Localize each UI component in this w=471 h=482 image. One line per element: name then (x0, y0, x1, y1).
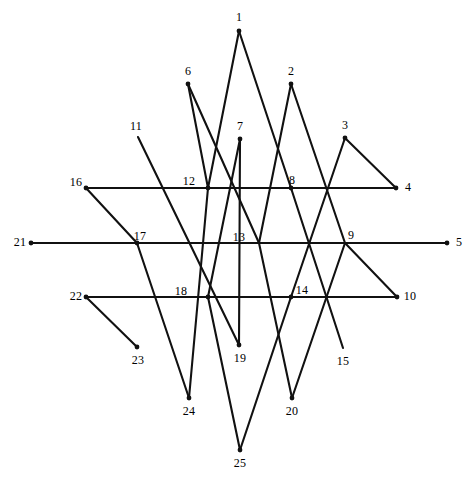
edge-16-17 (86, 188, 137, 243)
vertex-label-5: 5 (456, 236, 462, 248)
vertex-dot-6 (186, 82, 191, 87)
vertex-label-6: 6 (185, 65, 191, 77)
edge-3-4 (345, 138, 396, 188)
vertex-label-18: 18 (175, 285, 187, 297)
vertex-label-20: 20 (286, 405, 298, 417)
vertex-dot-5 (445, 241, 450, 246)
vertex-label-7: 7 (237, 120, 243, 132)
edge-1-8 (239, 31, 291, 188)
vertex-label-24: 24 (183, 405, 195, 417)
vertex-dot-16 (84, 186, 89, 191)
vertex-label-10: 10 (404, 290, 416, 302)
vertex-label-21: 21 (14, 236, 26, 248)
vertex-label-23: 23 (132, 354, 144, 366)
vertex-label-16: 16 (70, 176, 82, 188)
edge-11-19 (138, 137, 239, 345)
vertex-dot-4 (394, 186, 399, 191)
vertex-label-17: 17 (134, 230, 146, 242)
vertex-label-15: 15 (337, 355, 349, 367)
vertex-dot-23 (135, 345, 140, 350)
vertex-label-2: 2 (288, 65, 294, 77)
vertex-dot-18 (206, 295, 211, 300)
vertex-label-25: 25 (234, 457, 246, 469)
vertex-label-14: 14 (296, 284, 308, 296)
vertex-dot-3 (343, 136, 348, 141)
vertex-dot-10 (395, 295, 400, 300)
edge-25-14 (240, 297, 291, 450)
edge-12-24 (189, 188, 208, 398)
vertex-label-11: 11 (130, 120, 142, 132)
vertex-label-19: 19 (234, 352, 246, 364)
edge-13-20 (259, 243, 292, 398)
vertex-dot-22 (84, 295, 89, 300)
vertex-label-9: 9 (348, 229, 354, 241)
vertex-dot-2 (289, 82, 294, 87)
edge-17-24 (137, 243, 189, 398)
edge-22-23 (86, 297, 137, 347)
vertex-label-1: 1 (236, 11, 242, 23)
figure-canvas: 1234567891011121314151617181920212223242… (0, 0, 471, 482)
edge-6-12 (188, 84, 208, 188)
edge-18-25 (208, 297, 240, 450)
vertex-label-13: 13 (233, 231, 245, 243)
vertex-dot-20 (290, 396, 295, 401)
vertex-dot-12 (206, 186, 211, 191)
vertex-label-22: 22 (70, 290, 82, 302)
edge-9-10 (345, 243, 397, 297)
vertex-label-8: 8 (289, 174, 295, 186)
vertex-dot-7 (238, 137, 243, 142)
vertex-dot-14 (289, 295, 294, 300)
vertex-label-12: 12 (183, 175, 195, 187)
edge-20-9 (292, 243, 345, 398)
vertex-dot-1 (237, 29, 242, 34)
vertex-dot-24 (187, 396, 192, 401)
vertex-label-3: 3 (342, 119, 348, 131)
vertex-dot-19 (237, 343, 242, 348)
vertex-dot-21 (29, 241, 34, 246)
vertex-label-4: 4 (405, 181, 411, 193)
vertex-dot-25 (238, 448, 243, 453)
